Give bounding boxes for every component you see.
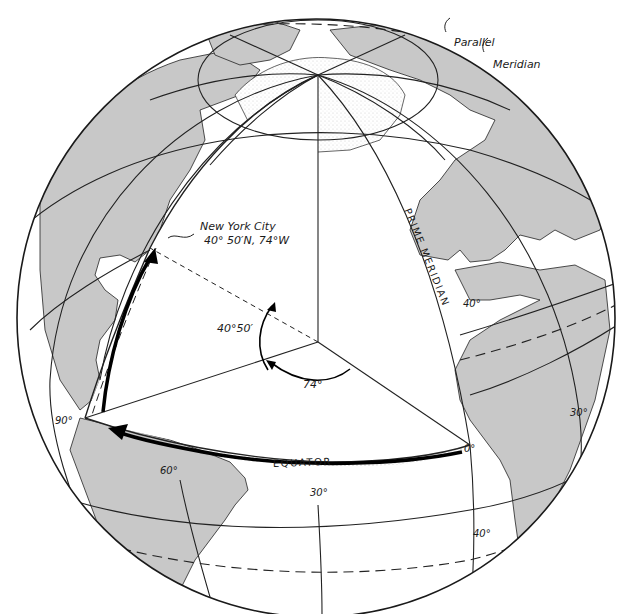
equator-label: EQUATOR xyxy=(273,456,332,469)
longitude-angle-label: 74° xyxy=(303,378,323,391)
degree-label-30-south: 30° xyxy=(310,487,328,498)
nyc-name-label: New York City xyxy=(200,220,276,233)
degree-label-40-north: 40° xyxy=(463,298,481,309)
degree-label-90: 90° xyxy=(55,415,73,426)
degree-label-60: 60° xyxy=(160,465,178,476)
meridian-label: Meridian xyxy=(493,58,541,71)
latitude-angle-label: 40°50′ xyxy=(217,322,253,335)
globe-diagram: Parallel Meridian New York City 40° 50′N… xyxy=(0,0,630,614)
globe xyxy=(17,19,630,614)
degree-label-0: 0° xyxy=(464,443,475,454)
nyc-coords-label: 40° 50′N, 74°W xyxy=(204,234,290,247)
degree-label-30-east: 30° xyxy=(570,407,588,418)
parallel-leader xyxy=(445,18,450,32)
degree-label-40-south: 40° xyxy=(473,528,491,539)
parallel-label: Parallel xyxy=(454,36,495,49)
